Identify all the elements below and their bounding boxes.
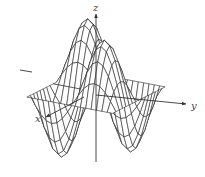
y-axis-label: y bbox=[190, 100, 197, 111]
surface-plot: z y x bbox=[0, 0, 205, 177]
y-axis-back-segment bbox=[20, 70, 32, 72]
z-axis-label: z bbox=[92, 2, 99, 13]
x-axis-label: x bbox=[35, 113, 41, 124]
